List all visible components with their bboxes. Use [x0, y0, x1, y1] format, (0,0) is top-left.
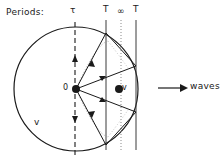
- origin-point: [72, 85, 80, 93]
- period-symbol-tau: τ: [70, 6, 75, 15]
- ray-upper-steep: [76, 33, 106, 89]
- periods-caption: Periods:: [6, 8, 44, 17]
- waves-label: waves: [190, 82, 220, 91]
- period-symbol-t-first: T: [103, 5, 109, 14]
- ray-arrowhead-upper-steep: [88, 60, 95, 67]
- period-symbol-t-second: T: [133, 5, 139, 14]
- origin-label: 0: [63, 84, 68, 92]
- period-symbol-infinity: ∞: [117, 7, 125, 16]
- waves-arrow-head: [180, 84, 188, 92]
- ray-arrowhead-down: [72, 116, 78, 123]
- ray-arrowhead-up: [72, 55, 78, 62]
- chord-upper: [106, 33, 136, 66]
- circle-velocity-label: v: [34, 118, 39, 127]
- ray-arrowhead-lower-steep: [88, 111, 95, 118]
- ray-lower-steep: [76, 89, 106, 145]
- moving-point-label: v: [122, 84, 127, 92]
